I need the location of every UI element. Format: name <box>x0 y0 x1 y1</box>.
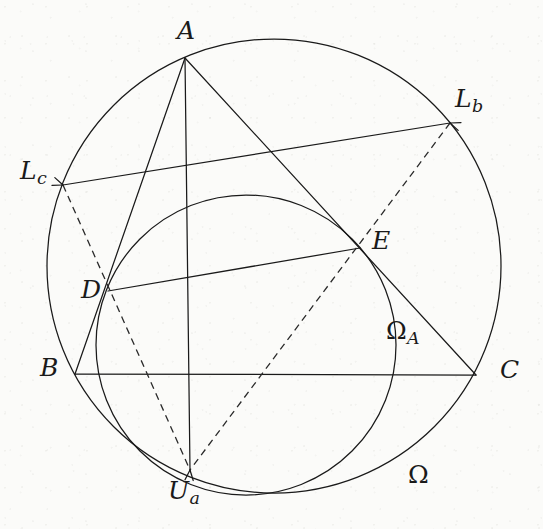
point-label-L-c-text: L <box>20 156 37 185</box>
point-label-D-text: D <box>81 275 101 304</box>
segment-A-C <box>185 58 476 375</box>
circles-group <box>47 39 501 495</box>
point-label-U-a-subscript: a <box>189 488 199 508</box>
segment-Lb-Ua <box>190 123 450 470</box>
point-label-D: D <box>81 277 101 302</box>
segment-Lc-Lb <box>63 123 450 185</box>
dashed-segments-group <box>63 123 450 470</box>
omega-a-label: ΩA <box>386 318 420 347</box>
omega-a-label-text: Ω <box>386 316 407 345</box>
solid-segments-group <box>63 58 476 470</box>
omega-label: Ω <box>408 462 429 487</box>
point-label-A-text: A <box>177 16 195 45</box>
segment-A-Ua <box>185 58 190 470</box>
point-label-A: A <box>177 18 195 43</box>
point-label-C: C <box>500 357 519 382</box>
point-label-B-text: B <box>40 353 58 382</box>
point-label-E-text: E <box>372 226 390 255</box>
point-label-L-c-subscript: c <box>37 168 47 188</box>
arrowhead-at-Lc <box>55 178 63 185</box>
segment-D-E <box>108 248 360 291</box>
point-label-L-c: Lc <box>20 158 47 187</box>
segment-B-C <box>75 374 476 375</box>
omega-a-label-subscript: A <box>407 328 420 348</box>
point-label-U-a: Ua <box>168 478 200 507</box>
circle-omega <box>47 39 501 493</box>
point-label-E: E <box>372 228 390 253</box>
omega-label-text: Ω <box>408 460 429 489</box>
geometry-figure <box>0 0 543 529</box>
arrowhead-at-Lb <box>450 123 458 130</box>
point-label-L-b-subscript: b <box>472 96 483 116</box>
point-label-B: B <box>40 355 58 380</box>
point-label-L-b: Lb <box>455 86 483 115</box>
figure-canvas: ABCDELbLcUa ΩAΩ <box>0 0 543 529</box>
point-label-U-a-text: U <box>168 476 189 505</box>
point-label-L-b-text: L <box>455 84 472 113</box>
point-label-C-text: C <box>500 355 519 384</box>
